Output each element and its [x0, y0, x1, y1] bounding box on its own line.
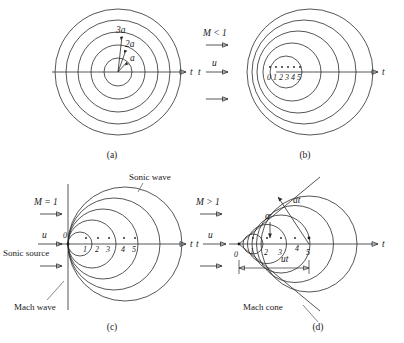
panel-a: t a 2a 3a (a) — [52, 9, 193, 161]
sonic-source-label: Sonic source — [3, 248, 49, 258]
mach-wave-leader — [47, 281, 64, 300]
left-axis-label-d: t — [196, 239, 199, 249]
source-dot — [266, 237, 268, 239]
point-number: 5 — [306, 248, 310, 257]
point-number: 2 — [95, 245, 99, 254]
mach-number-label-b: M < 1 — [202, 28, 227, 38]
point-number: 3 — [105, 245, 110, 254]
sonic-wave-leader — [138, 183, 143, 192]
source-dot — [85, 237, 87, 239]
source-dot — [252, 237, 254, 239]
source-dot — [134, 237, 136, 239]
radius-label-2a: 2a — [125, 39, 135, 49]
source-dot — [275, 66, 277, 68]
source-points-b: 0 1 2 3 4 5 — [267, 66, 301, 82]
point-number: 3 — [284, 73, 289, 82]
axis-label-d: t — [382, 239, 385, 249]
flow-speed-label-d: u — [208, 230, 213, 240]
source-dot — [269, 66, 271, 68]
panel-c: t M = 1 u 0 1 2 3 4 5 Sonic wave — [3, 172, 193, 333]
point-number: 1 — [273, 73, 277, 82]
distance-label-ut: ut — [281, 254, 289, 264]
radius-label-a: a — [130, 53, 135, 63]
source-dot — [287, 66, 289, 68]
point-number: 4 — [121, 245, 125, 254]
flow-speed-label-b: u — [212, 58, 217, 68]
origin-label-d: 0 — [234, 250, 238, 259]
cropped-caption-strip — [0, 336, 404, 343]
point-number: 4 — [291, 73, 295, 82]
mach-angle-arrowhead — [268, 234, 272, 238]
point-number: 1 — [250, 247, 254, 256]
point-number: 1 — [83, 245, 87, 254]
source-dot — [299, 66, 301, 68]
panel-caption-b: (b) — [299, 150, 310, 161]
point-number: 2 — [264, 248, 268, 257]
mach-number-label-d: M > 1 — [195, 197, 220, 207]
point-number: 5 — [297, 73, 301, 82]
mach-number-label-c: M = 1 — [33, 197, 58, 207]
source-dot — [293, 66, 295, 68]
radius-label-3a: 3a — [115, 25, 126, 35]
panel-caption-d: (d) — [312, 322, 323, 333]
origin-label-c: 0 — [63, 231, 67, 240]
source-dot — [108, 237, 110, 239]
panel-caption-c: (c) — [107, 322, 118, 333]
sonic-wave-label: Sonic wave — [129, 172, 171, 182]
sonic-radius-label-d: at — [293, 195, 301, 205]
axis-label-b: t — [382, 67, 385, 77]
axis-label-a: t — [190, 67, 193, 77]
left-axis-label-b: t — [198, 67, 201, 77]
radius-arrow-a — [118, 62, 127, 72]
mach-cone-label: Mach cone — [243, 302, 283, 312]
point-number: 2 — [279, 73, 283, 82]
panel-d: t M > 1 t u 0 1 2 3 4 5 at — [195, 177, 385, 333]
flow-speed-label-c: u — [42, 230, 47, 240]
source-dot — [123, 237, 125, 239]
source-dot — [294, 237, 296, 239]
point-number: 0 — [267, 73, 271, 82]
supersonic-source-dot — [238, 243, 241, 246]
source-dot — [280, 237, 282, 239]
sonic-wave-propagation-figure: t a 2a 3a (a) t M < 1 t u — [0, 0, 404, 343]
panel-b: t M < 1 t u 0 1 2 3 4 5 (b) — [198, 9, 385, 161]
source-dot — [281, 66, 283, 68]
mach-wave-label: Mach wave — [14, 302, 56, 312]
axis-label-c: t — [190, 239, 193, 249]
point-number: 4 — [295, 244, 299, 253]
point-number: 5 — [132, 245, 136, 254]
sonic-source-dot — [67, 243, 70, 246]
source-dot — [308, 237, 311, 240]
source-dot — [97, 237, 99, 239]
panel-caption-a: (a) — [107, 150, 118, 161]
